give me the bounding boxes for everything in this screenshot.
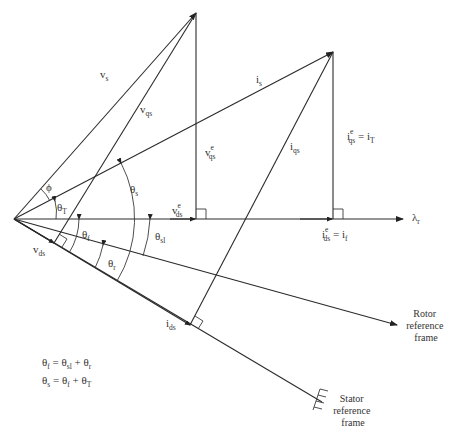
vs-label: vs: [100, 68, 109, 83]
thetaR-label: θr: [108, 257, 116, 272]
stator-ground-icon: [313, 389, 328, 410]
is-label: is: [256, 73, 262, 88]
thetaS-arc: [117, 163, 135, 281]
vqse-label: veqs: [205, 143, 216, 161]
vs-vector: [14, 13, 196, 219]
equation-theta-f: θf = θsl + θr: [42, 356, 92, 371]
thetaR-arc: [95, 245, 103, 268]
iqse-label: ieqs= iT: [347, 127, 375, 145]
vqs-label: vqs: [140, 103, 152, 118]
iqs-vector: [190, 52, 333, 325]
vdse-label: veds: [172, 201, 183, 219]
vds-label: vds: [33, 243, 45, 258]
idse-label: ieds= if: [322, 225, 348, 243]
thetaSl-arc: [143, 219, 150, 256]
thetaT-label: θT: [57, 201, 67, 216]
rotor-frame-label: Rotor reference frame: [406, 308, 446, 343]
ids-label: ids: [166, 317, 176, 332]
is-vector: [14, 52, 333, 219]
ids-vector: [14, 219, 190, 325]
thetaF-label: θf: [82, 228, 90, 243]
thetaS-label: θs: [130, 183, 138, 198]
iqs-label: iqs: [290, 140, 300, 155]
diagram-svg: vs vqs veqs veds vds is iqs ids ieqs= iT…: [0, 0, 457, 436]
equation-theta-s: θs = θf + θT: [42, 374, 92, 389]
vector-diagram: vs vqs veqs veds vds is iqs ids ieqs= iT…: [0, 0, 457, 436]
right-angle-marker: [59, 234, 67, 247]
right-angle-marker: [333, 209, 343, 219]
thetaSl-label: θsl: [155, 230, 165, 245]
phi-label: ϕ: [46, 181, 52, 193]
right-angle-marker: [196, 209, 206, 219]
stator-frame-label: Stator reference frame: [333, 393, 373, 428]
lambda-r-label: λr: [412, 211, 420, 226]
